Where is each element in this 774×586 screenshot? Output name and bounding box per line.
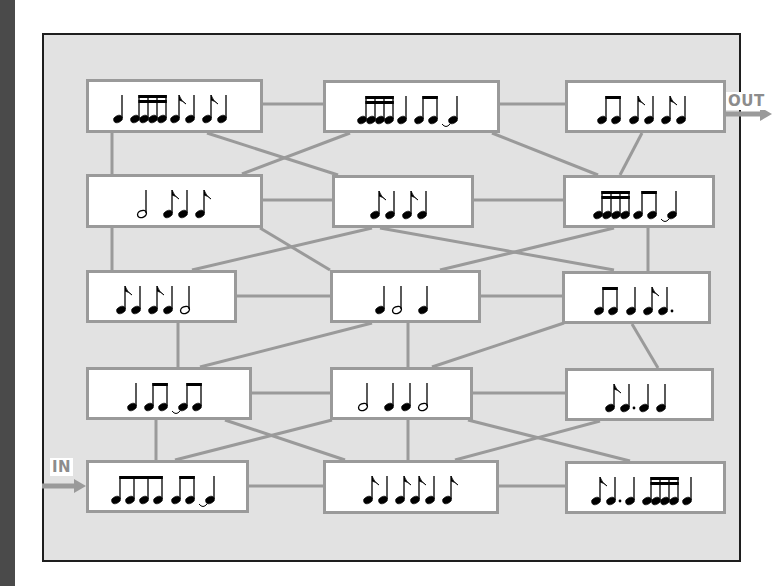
in-label: IN [50,458,73,476]
link-r2c2-r3c1 [192,228,372,270]
link-r4c2-r5c3 [468,420,630,461]
rhythm-notation-icon [354,84,470,130]
rhythm-box-r3c2 [330,270,481,323]
link-r4c3-r5c2 [455,421,600,460]
rhythm-notation-icon [372,274,440,320]
link-r2c1-r3c2 [260,228,330,270]
rhythm-notation-icon [588,465,704,511]
rhythm-box-r4c1 [86,367,252,420]
rhythm-box-r5c1 [86,460,249,513]
rhythm-box-r3c1 [86,270,237,323]
rhythm-notation-icon [113,274,211,320]
link-r4c1-r5c2 [225,420,345,460]
rhythm-box-r2c2 [332,175,474,228]
rhythm-notation-icon [602,372,678,418]
rhythm-box-r5c3 [565,461,726,514]
link-r3c3-r4c2 [432,323,564,367]
link-r4c2-r5c1 [175,420,332,460]
link-r1c2-r2c1 [242,133,350,174]
link-r1c1-r2c2 [207,133,338,175]
rhythm-notation-icon [360,464,462,510]
link-r2c3-r3c2 [440,228,614,270]
rhythm-notation-icon [110,83,239,129]
rhythm-notation-icon [108,464,227,510]
link-r1c3-r2c3 [620,133,642,175]
rhythm-notation-icon [367,179,439,225]
in-arrow-icon [42,479,86,493]
rhythm-notation-icon [124,371,215,417]
rhythm-box-r1c2 [323,80,500,133]
link-r3c2-r4c1 [200,323,372,367]
link-r3c3-r4c3 [632,324,658,368]
rhythm-notation-icon [355,371,449,417]
rhythm-notation-icon [591,275,682,321]
rhythm-box-r1c1 [86,79,263,133]
rhythm-notation-icon [590,179,689,225]
rhythm-box-r4c2 [330,367,473,420]
rhythm-box-r1c3 [565,80,726,133]
rhythm-box-r2c3 [563,175,715,228]
rhythm-notation-icon [134,178,215,224]
rhythm-box-r2c1 [86,174,263,228]
rhythm-box-r5c2 [323,460,499,514]
rhythm-box-r4c3 [565,368,714,421]
rhythm-notation-icon [594,84,698,130]
rhythm-box-r3c3 [562,271,711,324]
out-label: OUT [726,92,767,110]
link-r2c2-r3c3 [380,228,614,270]
link-r1c2-r2c3 [492,133,598,175]
